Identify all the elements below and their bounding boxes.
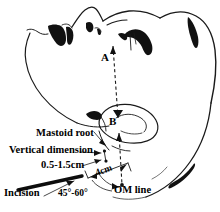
mastoid-region: [99, 131, 130, 151]
label-vertical-dimension-value: 0.5-1.5cm: [41, 160, 84, 171]
nose-profile: [72, 7, 103, 35]
eye-brow-region: [118, 29, 152, 55]
label-vertical-dimension: Vertical dimension: [9, 145, 93, 156]
label-incision: Incision: [4, 188, 40, 199]
label-om-line: OM line: [114, 185, 151, 196]
label-point-a: A: [101, 52, 109, 63]
lips-chin: [27, 24, 73, 46]
forehead-brow: [103, 11, 160, 25]
dashed-om-line: [116, 133, 124, 187]
label-point-b: B: [109, 116, 116, 127]
label-mastoid-root: Mastoid root: [36, 128, 94, 139]
vertical-dimension-marker: [103, 149, 108, 162]
anatomical-figure: A B Mastoid root Vertical dimension 0.5-…: [0, 0, 220, 212]
label-angle-range: 45°-60°: [58, 189, 88, 199]
leader-lines: [80, 132, 121, 189]
scalp-hairline: [160, 12, 216, 103]
figure-illustration: [0, 0, 220, 212]
